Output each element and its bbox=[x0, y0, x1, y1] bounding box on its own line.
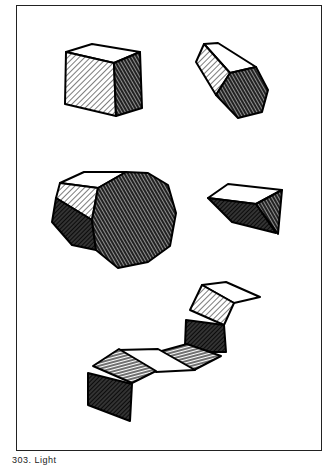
octagonal-prism-drawing bbox=[52, 172, 176, 268]
cube-drawing bbox=[65, 44, 142, 116]
hexagonal-prism-drawing bbox=[196, 43, 268, 118]
figure-caption: 303. Light bbox=[12, 455, 57, 465]
folded-strip-drawing bbox=[88, 282, 260, 421]
triangular-prism-drawing bbox=[208, 184, 282, 234]
